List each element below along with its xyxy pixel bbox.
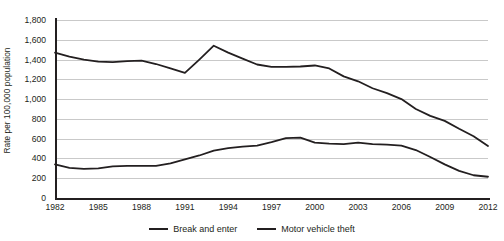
y-axis-title: Rate per 100,000 population [0, 0, 14, 200]
series-line [55, 46, 488, 146]
series-layer [55, 20, 488, 198]
y-axis-tick-label: 1,400 [24, 55, 46, 64]
legend-label: Break and enter [173, 224, 237, 235]
x-axis-tick-label: 2000 [305, 201, 324, 213]
y-axis-line [55, 18, 57, 200]
legend-item[interactable]: Break and enter [149, 224, 237, 235]
x-axis-tick-label: 2003 [349, 201, 368, 213]
y-axis-tick-labels: 02004006008001,0001,2001,4001,6001,800 [14, 0, 50, 200]
y-axis-tick-label: 1,000 [24, 95, 46, 104]
plot-area [55, 20, 488, 198]
legend-line-swatch-icon [149, 228, 168, 230]
series-line [55, 138, 488, 177]
line-chart: Rate per 100,000 population 020040060080… [0, 0, 504, 241]
y-axis-tick-label: 600 [32, 134, 46, 143]
legend-item[interactable]: Motor vehicle theft [257, 224, 355, 235]
x-axis-line [55, 198, 490, 200]
y-axis-tick-label: 1,800 [24, 16, 46, 25]
y-axis-tick-label: 400 [32, 154, 46, 163]
y-axis-tick-label: 800 [32, 114, 46, 123]
x-axis-tick-label: 1988 [132, 201, 151, 213]
y-axis-tick-label: 200 [32, 174, 46, 183]
x-axis-tick-label: 2012 [478, 201, 497, 213]
chart-legend: Break and enterMotor vehicle theft [0, 220, 504, 238]
legend-line-swatch-icon [257, 228, 276, 230]
x-axis-tick-label: 1985 [89, 201, 108, 213]
x-axis-tick-label: 2009 [435, 201, 454, 213]
y-axis-tick-label: 1,600 [24, 35, 46, 44]
x-axis-tick-label: 1982 [45, 201, 64, 213]
x-axis-tick-label: 1991 [175, 201, 194, 213]
x-axis-tick-label: 2006 [392, 201, 411, 213]
legend-label: Motor vehicle theft [281, 224, 355, 235]
y-axis-tick-label: 1,200 [24, 75, 46, 84]
x-axis-tick-labels: 1982198519881991199419972000200320062009… [55, 201, 488, 217]
y-axis-title-label: Rate per 100,000 population [3, 47, 12, 153]
x-axis-tick-label: 1997 [262, 201, 281, 213]
x-axis-tick-label: 1994 [219, 201, 238, 213]
